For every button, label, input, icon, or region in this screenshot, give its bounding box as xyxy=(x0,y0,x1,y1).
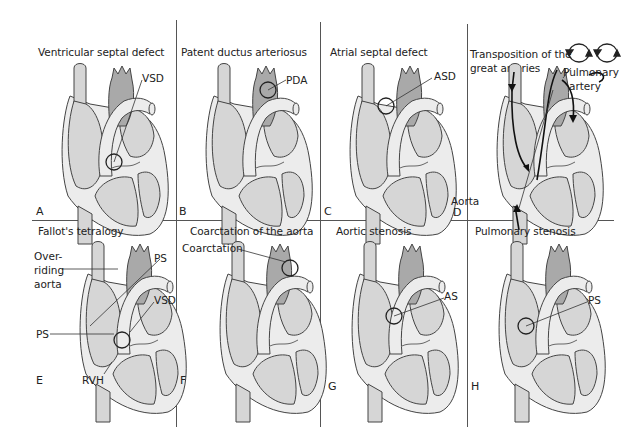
panel-letter: C xyxy=(324,205,332,218)
panel-letter: G xyxy=(328,380,337,393)
panel-letter: H xyxy=(471,380,479,393)
label-coarctation: Coarctation xyxy=(182,242,243,254)
label-over: Over- xyxy=(34,250,62,262)
panel-coarctation-of-aorta: Coarctation of the aorta Coarctation F xyxy=(176,222,321,427)
panel-letter: D xyxy=(453,206,461,219)
heart-diagram xyxy=(467,20,627,230)
panel-pulmonary-stenosis: Pulmonary stenosis PS H xyxy=(467,222,612,427)
label-ps-upper: PS xyxy=(154,252,167,264)
label-ps-lower: PS xyxy=(36,328,49,340)
heart-diagram xyxy=(32,20,177,220)
label-riding: riding xyxy=(34,264,64,276)
label-vsd: VSD xyxy=(142,72,164,84)
heart-diagram xyxy=(320,20,465,220)
label-as: AS xyxy=(444,290,458,302)
panel-letter: B xyxy=(179,205,187,218)
panel-ventricular-septal-defect: Ventricular septal defect VSD A xyxy=(32,20,177,225)
label-pda: PDA xyxy=(286,74,307,86)
heart-diagram xyxy=(176,20,321,220)
label-vsd: VSD xyxy=(154,294,176,306)
panel-atrial-septal-defect: Atrial septal defect ASD C xyxy=(320,20,465,225)
panel-aortic-stenosis: Aortic stenosis AS G xyxy=(320,222,465,427)
panel-letter: A xyxy=(36,205,44,218)
label-ps: PS xyxy=(588,294,601,306)
panel-transposition-great-arteries: Transposition of the great arteries Pulm… xyxy=(467,20,627,225)
heart-diagram xyxy=(467,222,612,422)
panel-letter: E xyxy=(36,374,43,387)
label-aorta: aorta xyxy=(34,278,62,290)
label-artery: artery xyxy=(569,80,601,92)
panel-patent-ductus-arteriosus: Patent ductus arteriosus PDA B xyxy=(176,20,321,225)
label-asd: ASD xyxy=(434,70,456,82)
label-pulmonary: Pulmonary xyxy=(563,66,619,78)
panel-fallots-tetralogy: Fallot's tetralogy Over- riding aorta PS… xyxy=(32,222,177,427)
label-rvh: RVH xyxy=(82,374,104,386)
heart-diagram xyxy=(320,222,465,422)
circulation-icons xyxy=(566,44,620,62)
panel-letter: F xyxy=(180,374,186,387)
